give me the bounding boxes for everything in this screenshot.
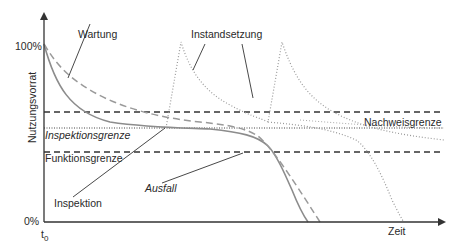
wear-curve-repair-tail (268, 122, 404, 222)
x-origin-tick: t0 (41, 228, 49, 243)
wear-reserve-diagram: Nutzungsvorrat 100% 0% t0 Zeit Nachweisg… (0, 0, 462, 249)
ausfall-label: Ausfall (144, 182, 177, 194)
instandsetzung-label: Instandsetzung (191, 28, 262, 40)
y-axis-arrow-icon (40, 12, 48, 20)
inspektionsgrenze-label: Inspektionsgrenze (45, 129, 130, 141)
y-axis-label: Nutzungsvorrat (26, 72, 38, 143)
x-axis-arrow-icon (438, 218, 446, 226)
inspektion-label: Inspektion (54, 197, 102, 209)
nachweisgrenze-label: Nachweisgrenze (364, 116, 442, 128)
x-axis-label: Zeit (388, 225, 406, 237)
instandsetzung-leader-2 (242, 44, 253, 98)
instandsetzung-leader-1 (193, 44, 205, 70)
y-top-tick: 100% (15, 40, 42, 52)
y-bottom-tick: 0% (24, 215, 39, 227)
ausfall-leader (162, 153, 243, 183)
funktionsgrenze-label: Funktionsgrenze (45, 152, 123, 164)
wartung-label: Wartung (78, 28, 117, 40)
